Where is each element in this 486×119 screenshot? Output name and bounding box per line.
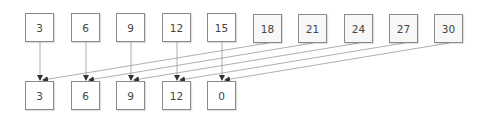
edge-top-7-to-bottom-2 xyxy=(134,43,359,80)
top-node-6: 21 xyxy=(298,14,327,43)
bottom-node-0: 3 xyxy=(25,81,54,110)
edge-top-8-to-bottom-3 xyxy=(180,43,404,80)
top-node-1: 6 xyxy=(71,13,100,42)
bottom-node-1: 6 xyxy=(71,81,100,110)
bottom-node-4: 0 xyxy=(207,81,236,110)
bottom-node-3: 12 xyxy=(162,81,191,110)
edge-top-9-to-bottom-4 xyxy=(225,43,449,80)
top-node-4: 15 xyxy=(207,13,236,42)
top-node-8: 27 xyxy=(389,14,418,43)
top-node-2: 9 xyxy=(116,13,145,42)
top-node-9: 30 xyxy=(434,14,463,43)
top-node-7: 24 xyxy=(344,14,373,43)
diagram-canvas: 3 6 9 12 15 18 21 24 27 30 3 6 9 12 0 xyxy=(0,0,486,119)
top-node-3: 12 xyxy=(162,13,191,42)
top-node-0: 3 xyxy=(25,13,54,42)
edge-top-6-to-bottom-1 xyxy=(89,43,313,80)
edge-top-5-to-bottom-0 xyxy=(43,43,268,80)
top-node-5: 18 xyxy=(253,14,282,43)
bottom-node-2: 9 xyxy=(116,81,145,110)
